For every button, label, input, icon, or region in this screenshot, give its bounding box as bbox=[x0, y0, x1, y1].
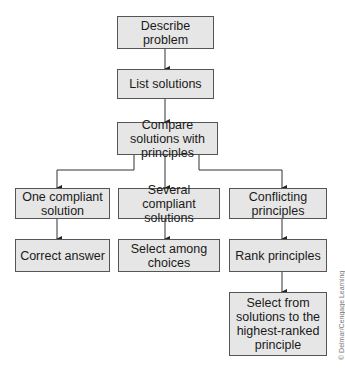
node-list-solutions: List solutions bbox=[117, 69, 214, 99]
node-compare-solutions: Compare solutions with principles bbox=[117, 122, 218, 155]
node-several-compliant: Several compliant solutions bbox=[118, 188, 220, 219]
node-describe-problem: Describe problem bbox=[117, 16, 214, 49]
copyright-credit: © Delmar/Cengage Learning bbox=[338, 271, 345, 360]
node-select-from: Select from solutions to the highest-ran… bbox=[229, 292, 327, 356]
node-one-compliant: One compliant solution bbox=[15, 188, 110, 219]
node-correct-answer: Correct answer bbox=[15, 239, 110, 272]
node-conflicting-principles: Conflicting principles bbox=[229, 188, 327, 219]
node-rank-principles: Rank principles bbox=[229, 239, 327, 272]
node-select-among: Select among choices bbox=[118, 239, 220, 272]
